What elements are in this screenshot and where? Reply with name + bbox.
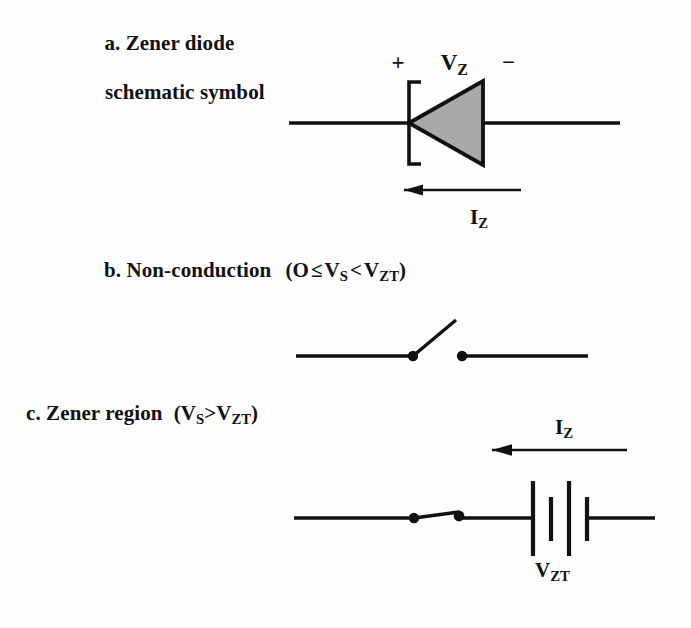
- part-a-current-label: IZ: [470, 205, 488, 230]
- part-b-open-paren: (O: [285, 258, 309, 282]
- part-a-caption: a. Zener diode schematic symbol: [83, 6, 265, 155]
- part-c-current-arrow: [492, 444, 627, 456]
- closed-switch-pivot-dot: [409, 513, 419, 523]
- part-b-condition: (O≤VS<VZT): [271, 258, 406, 282]
- polarity-plus-sign: +: [391, 50, 440, 75]
- part-c-current-label-sub: Z: [563, 425, 573, 441]
- part-b-open-switch-circuit: [296, 320, 588, 361]
- part-c-open-paren: (: [174, 401, 181, 425]
- part-a-current-arrow: [404, 184, 521, 195]
- part-b-v2-main: V: [364, 258, 379, 282]
- part-c-condition: (VS>VZT): [163, 401, 259, 425]
- zener-voltage-label-sub: Z: [457, 61, 468, 78]
- zener-voltage-label-main: V: [441, 50, 458, 75]
- part-c-caption-prefix: c. Zener region: [26, 401, 163, 425]
- zener-diode-figure: a. Zener diode schematic symbol +VZ− IZ …: [0, 0, 691, 628]
- part-c-close-paren: ): [251, 401, 258, 425]
- part-c-zener-region-circuit: [294, 444, 655, 556]
- part-b-caption: b. Non-conduction(O≤VS<VZT): [104, 258, 406, 283]
- part-c-v1-main: V: [181, 401, 196, 425]
- part-c-battery-label-main: V: [535, 558, 550, 582]
- part-c-caption: c. Zener region(VS>VZT): [26, 401, 258, 426]
- part-b-v2-sub: ZT: [379, 268, 399, 284]
- polarity-minus-sign: −: [468, 50, 515, 75]
- part-b-v1-main: V: [325, 258, 340, 282]
- part-c-battery-label: VZT: [535, 558, 570, 583]
- part-c-v2-sub: ZT: [232, 411, 252, 427]
- part-b-relation-1: ≤: [309, 258, 325, 282]
- part-b-close-paren: ): [399, 258, 406, 282]
- part-c-v2-main: V: [216, 401, 231, 425]
- part-b-caption-prefix: b. Non-conduction: [104, 258, 271, 282]
- part-c-current-label: IZ: [555, 415, 573, 440]
- part-b-relation-2: <: [348, 258, 364, 282]
- closed-switch-blade: [414, 512, 459, 518]
- part-b-v1-sub: S: [340, 268, 348, 284]
- part-a-current-label-sub: Z: [478, 215, 488, 231]
- open-switch-pivot-dot: [408, 351, 418, 361]
- closed-switch-contact-dot: [454, 511, 465, 522]
- zener-voltage-label: VZ: [441, 50, 468, 75]
- part-c-v1-sub: S: [196, 411, 204, 427]
- part-c-battery-label-sub: ZT: [550, 568, 570, 584]
- part-a-caption-line2: schematic symbol: [83, 80, 265, 105]
- part-a-polarity-labels: +VZ−: [368, 22, 515, 103]
- battery-symbol: [533, 481, 587, 556]
- part-a-caption-line1: a. Zener diode: [104, 31, 234, 55]
- part-c-relation: >: [204, 401, 216, 425]
- open-switch-blade: [413, 320, 456, 356]
